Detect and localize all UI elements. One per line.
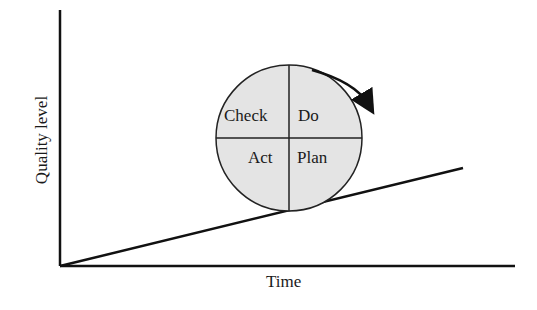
quadrant-act: Act xyxy=(248,148,273,168)
quadrant-do: Do xyxy=(298,106,319,126)
quadrant-plan: Plan xyxy=(297,148,327,168)
y-axis-label: Quality level xyxy=(32,96,52,184)
x-axis-label: Time xyxy=(266,272,301,292)
quadrant-check: Check xyxy=(224,106,267,126)
